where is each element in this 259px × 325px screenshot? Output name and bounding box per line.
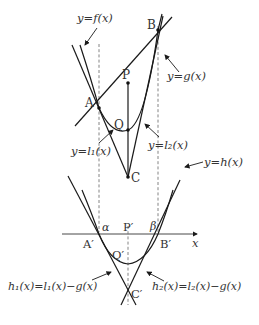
lower-graph: x α β P′ A′ B′ Q′ C′ y=h(x) h₁(x)=l₁(x)−… xyxy=(8,155,243,305)
label-alpha: α xyxy=(102,221,110,234)
label-P: P xyxy=(122,68,130,82)
label-h2: h₂(x)=l₂(x)−g(x) xyxy=(152,280,241,293)
label-Q-prime: Q′ xyxy=(112,248,124,262)
label-h1: h₁(x)=l₁(x)−g(x) xyxy=(8,280,97,293)
arrow-h1-icon xyxy=(92,272,111,280)
label-f: y=f(x) xyxy=(76,11,113,25)
label-B-prime: B′ xyxy=(160,237,171,251)
label-B: B xyxy=(147,18,156,32)
arrow-f-icon xyxy=(85,28,97,45)
label-l2: y=l₂(x) xyxy=(147,138,188,152)
label-C: C xyxy=(131,171,140,185)
arrow-h-icon xyxy=(185,162,203,167)
label-P-prime: P′ xyxy=(123,220,134,234)
label-A-prime: A′ xyxy=(82,237,94,251)
label-g: y=g(x) xyxy=(166,69,206,83)
label-h: y=h(x) xyxy=(203,155,243,169)
point-C xyxy=(126,175,130,179)
point-A xyxy=(97,106,101,110)
label-C-prime: C′ xyxy=(131,287,143,301)
x-axis-label: x xyxy=(192,236,199,250)
label-Q: Q xyxy=(114,118,124,132)
label-l1: y=l₁(x) xyxy=(70,144,111,158)
arrow-l2-icon xyxy=(145,124,159,137)
point-Q xyxy=(126,128,130,132)
upper-graph: A B P Q C y=f(x) y=g(x) y=l₁(x) y=l₂(x) xyxy=(70,11,206,232)
label-A: A xyxy=(84,96,94,110)
point-B xyxy=(156,28,160,32)
label-beta: β xyxy=(149,220,156,233)
diagram-figure: A B P Q C y=f(x) y=g(x) y=l₁(x) y=l₂(x) … xyxy=(0,0,259,325)
